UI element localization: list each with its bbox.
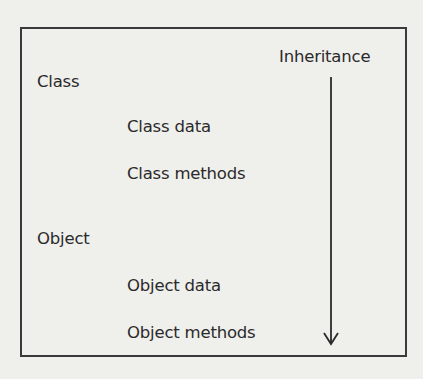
- object-data-label: Object data: [127, 276, 221, 296]
- class-data-label: Class data: [127, 117, 211, 137]
- diagram-canvas: { "diagram": { "type": "inheritance-hier…: [0, 0, 423, 379]
- class-methods-label: Class methods: [127, 164, 245, 184]
- object-methods-label: Object methods: [127, 323, 256, 343]
- class-heading: Class: [37, 72, 79, 92]
- object-heading: Object: [37, 229, 90, 249]
